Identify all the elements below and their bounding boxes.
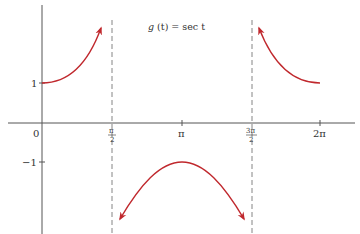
x-tick-label-3pi-over-2: 3π 2: [246, 127, 257, 144]
chart-title: g (t) = sec t: [148, 21, 205, 32]
y-tick-label-neg1: −1: [22, 157, 37, 168]
curve-right-branch: [259, 28, 320, 83]
x-tick-label-pi-over-2: π 2: [108, 127, 116, 144]
x-tick-label-pi: π: [178, 128, 185, 139]
svg-text:3π: 3π: [246, 127, 255, 135]
x-tick-label-2pi: 2π: [313, 128, 326, 139]
secant-chart: g (t) = sec t 0 1 −1 π 2π π 2 3π 2: [0, 0, 360, 234]
y-tick-label-1: 1: [31, 78, 37, 89]
svg-text:2: 2: [249, 136, 253, 144]
x-tick-label-0: 0: [33, 128, 39, 139]
curve-middle-branch: [120, 162, 244, 219]
curve-left-branch: [42, 28, 101, 83]
svg-text:2: 2: [110, 136, 114, 144]
svg-text:π: π: [109, 127, 114, 135]
